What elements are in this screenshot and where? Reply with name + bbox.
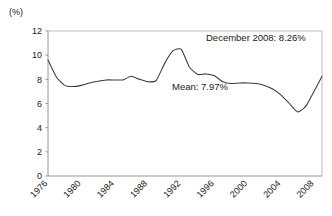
x-axis-tick-label: 2004: [261, 178, 282, 199]
y-axis-tick-label: 2: [37, 147, 42, 157]
y-axis-tick-label: 8: [37, 75, 42, 85]
x-axis-tick-label: 1980: [61, 178, 82, 199]
line-chart-svg: 024681012 197619801984198819921996200020…: [0, 0, 332, 216]
x-axis-tick-label: 1984: [95, 178, 116, 199]
x-axis-tick-label: 1996: [195, 178, 216, 199]
x-axis-tick-labels: 197619801984198819921996200020042008: [28, 178, 316, 199]
chart-container: (%) 024681012 19761980198419881992199620…: [0, 0, 332, 216]
x-axis-tick-label: 2000: [228, 178, 249, 199]
x-axis-tick-label: 1988: [128, 178, 149, 199]
mean-annotation: Mean: 7.97%: [172, 81, 229, 92]
x-axis-tick-label: 1976: [28, 178, 49, 199]
x-axis-tick-label: 1992: [161, 178, 182, 199]
chart-axes: [48, 31, 322, 176]
y-axis-tick-labels: 024681012: [32, 26, 42, 181]
y-axis-tick-label: 12: [32, 26, 42, 36]
december-2008-annotation: December 2008: 8.26%: [206, 32, 306, 43]
y-axis-tick-label: 6: [37, 99, 42, 109]
y-axis-tick-label: 4: [37, 123, 42, 133]
y-axis-tick-label: 10: [32, 50, 42, 60]
x-axis-tick-label: 2008: [295, 178, 316, 199]
